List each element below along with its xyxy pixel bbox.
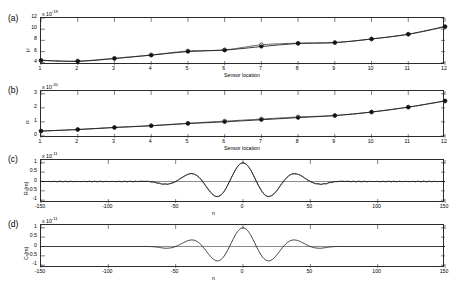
panel-d-x-tick-label: -150 <box>27 269 53 275</box>
panel-b-x-tick-label: 4 <box>137 139 163 145</box>
panel-a-y-tick-label: 10 <box>18 25 37 31</box>
panel-c-y-tick-label: -0.5 <box>18 187 37 193</box>
panel-c-x-tick-label: 0 <box>229 204 255 210</box>
panel-c-letter: (c) <box>8 155 18 164</box>
panel-b-y-tick-label: 0 <box>18 132 37 138</box>
panel-a-x-tick-label: 7 <box>247 66 273 72</box>
panel-d-letter: (d) <box>8 220 18 229</box>
panel-d-y-tick-label: -0.5 <box>18 252 37 258</box>
panel-d-x-tick-label: 0 <box>229 269 255 275</box>
panel-b-x-tick-label: 8 <box>284 139 310 145</box>
panel-a-x-tick-label: 9 <box>321 66 347 72</box>
panel-d-x-tick-label: -50 <box>162 269 188 275</box>
panel-c-x-tick-label: -150 <box>27 204 53 210</box>
panel-a-x-tick-label: 3 <box>100 66 126 72</box>
panel-d-x-tick-label: 50 <box>296 269 322 275</box>
panel-b-data-plot <box>41 91 445 138</box>
panel-d-x-tick-label: 150 <box>431 269 456 275</box>
panel-c-x-tick-label: 100 <box>364 204 390 210</box>
panel-b-x-tick-label: 7 <box>247 139 273 145</box>
panel-a-y-tick-label: 12 <box>18 14 37 20</box>
panel-b-x-tick-label: 10 <box>358 139 384 145</box>
panel-b-x-axis-label: Sensor location <box>180 145 304 151</box>
panel-a-x-axis-label: Sensor location <box>180 72 304 78</box>
panel-b-y-tick-label: 3 <box>18 90 37 96</box>
panel-a-x-tick-label: 2 <box>64 66 90 72</box>
panel-a-letter: (a) <box>8 14 18 23</box>
panel-a-y-tick-label: 4 <box>18 59 37 65</box>
panel-a-plot-area <box>40 17 444 64</box>
panel-b-x-tick-label: 12 <box>431 139 456 145</box>
panel-b-y-tick-label: 2 <box>18 104 37 110</box>
panel-b-y-tick-label: 1 <box>18 118 37 124</box>
panel-b-x-tick-label: 6 <box>211 139 237 145</box>
panel-a-x-tick-label: 12 <box>431 66 456 72</box>
panel-c-plot-area <box>40 159 444 202</box>
panel-b-x-tick-label: 11 <box>394 139 420 145</box>
panel-a-data-plot <box>41 18 445 65</box>
panel-a-y-tick-label: 6 <box>18 48 37 54</box>
panel-b-x-tick-label: 1 <box>27 139 53 145</box>
panel-b-x-tick-label: 9 <box>321 139 347 145</box>
panel-c-x-tick-label: 50 <box>296 204 322 210</box>
panel-b-plot-area <box>40 90 444 137</box>
panel-d-data-plot <box>41 225 445 268</box>
panel-d-y-tick-label: 0 <box>18 243 37 249</box>
panel-a-x-tick-label: 10 <box>358 66 384 72</box>
panel-b-x-tick-label: 3 <box>100 139 126 145</box>
panel-d-x-axis-label: n <box>212 275 272 281</box>
panel-d-plot-area <box>40 224 444 267</box>
panel-d-y-exponent-value: -11 <box>52 216 58 221</box>
panel-a-x-tick-label: 8 <box>284 66 310 72</box>
panel-d-y-tick-label: -1 <box>18 261 37 267</box>
panel-a-x-tick-label: 5 <box>174 66 200 72</box>
panel-a-x-tick-label: 4 <box>137 66 163 72</box>
panel-b-y-exponent-value: -20 <box>52 82 58 87</box>
panel-c-data-plot <box>41 160 445 203</box>
panel-d-y-tick-label: 0.5 <box>18 233 37 239</box>
panel-a-y-tick-label: 8 <box>18 36 37 42</box>
panel-d-x-tick-label: 100 <box>364 269 390 275</box>
panel-a-x-tick-label: 6 <box>211 66 237 72</box>
panel-c-y-tick-label: 1 <box>18 159 37 165</box>
panel-c-x-tick-label: -100 <box>94 204 120 210</box>
panel-c-x-tick-label: 150 <box>431 204 456 210</box>
figure-canvas: (a) x 10-19 μᵢ 1210864 123456789101112 S… <box>0 0 456 298</box>
panel-c-y-exponent-value: -11 <box>52 151 58 156</box>
panel-b-x-tick-label: 5 <box>174 139 200 145</box>
panel-b-letter: (b) <box>8 86 18 95</box>
panel-c-x-axis-label: n <box>212 210 272 216</box>
panel-a-x-tick-label: 11 <box>394 66 420 72</box>
panel-c-y-tick-label: -1 <box>18 196 37 202</box>
panel-c-y-tick-label: 0 <box>18 178 37 184</box>
panel-a-x-tick-label: 1 <box>27 66 53 72</box>
panel-c-x-tick-label: -50 <box>162 204 188 210</box>
panel-d-x-tick-label: -100 <box>94 269 120 275</box>
panel-b-x-tick-label: 2 <box>64 139 90 145</box>
panel-a-y-exponent-value: -19 <box>52 9 58 14</box>
panel-c-y-tick-label: 0.5 <box>18 168 37 174</box>
panel-d-y-tick-label: 1 <box>18 224 37 230</box>
